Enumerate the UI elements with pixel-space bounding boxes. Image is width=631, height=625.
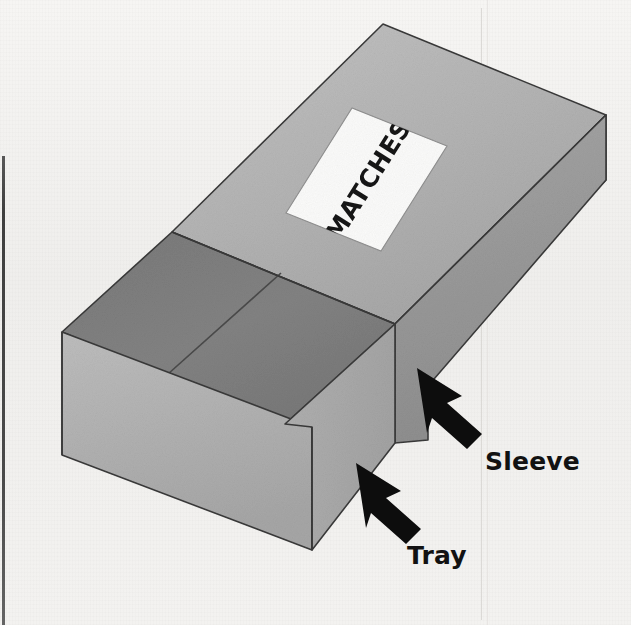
tray-callout-arrow-icon xyxy=(356,463,421,544)
callout-label-sleeve: Sleeve xyxy=(485,447,580,476)
callout-label-tray: Tray xyxy=(407,541,467,570)
matchbox-illustration: MATCHES xyxy=(0,0,631,625)
figure-canvas: MATCHES Sleeve Tray xyxy=(0,0,631,625)
